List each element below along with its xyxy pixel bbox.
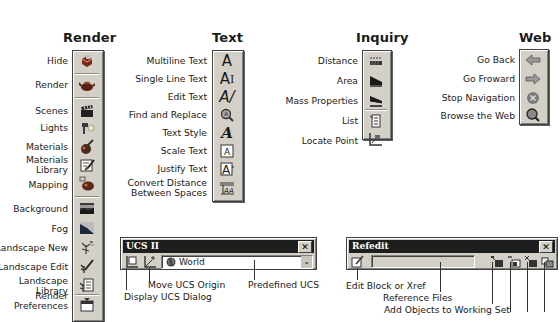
callout-line-save-back-changes xyxy=(544,262,545,312)
render-label-landscape-new: Landscape New xyxy=(0,243,68,253)
svg-text:A: A xyxy=(228,187,234,195)
text-label-edit: Edit Text xyxy=(168,92,207,102)
render-label-background: Background xyxy=(13,204,68,214)
text-label-convert-distance: Convert DistanceBetween Spaces xyxy=(128,178,207,198)
inquiry-separator xyxy=(365,109,387,111)
render-toolbar-title: Render xyxy=(63,30,116,45)
ucs2-title-bar[interactable]: UCS II ✕ xyxy=(123,240,314,253)
callout-line-display-ucs xyxy=(126,268,127,290)
text-label-scale: Scale Text xyxy=(161,146,207,156)
render-label-materials: Materials xyxy=(26,142,68,152)
web-label-stop-navigation: Stop Navigation xyxy=(442,93,515,103)
callout-line-edit-block xyxy=(357,268,358,280)
hide-icon[interactable] xyxy=(78,52,96,70)
landscape-new-icon[interactable] xyxy=(78,238,96,256)
refedit-title: Refedit xyxy=(352,241,389,251)
multiline-text-icon[interactable]: A xyxy=(218,52,236,70)
arrow-right-icon[interactable] xyxy=(524,70,542,88)
web-label-browse-web: Browse the Web xyxy=(441,111,515,121)
scenes-clapboard-icon[interactable] xyxy=(78,102,96,120)
render-label-lights: Lights xyxy=(40,123,68,133)
web-label-go-back: Go Back xyxy=(477,55,515,65)
edit-block-xref-icon[interactable] xyxy=(350,255,365,268)
render-label-fog: Fog xyxy=(52,224,68,234)
callout-line-reference-files xyxy=(440,262,441,292)
text-label-justify: Justify Text xyxy=(158,164,207,174)
edit-text-icon[interactable]: A/ xyxy=(218,88,236,106)
render-label-hide: Hide xyxy=(47,56,68,66)
lights-icon[interactable] xyxy=(78,119,96,137)
display-ucs-dialog-icon[interactable] xyxy=(124,255,139,268)
scale-text-icon[interactable]: A xyxy=(218,142,236,160)
inquiry-label-list: List xyxy=(342,116,358,126)
browse-web-icon[interactable] xyxy=(524,106,542,124)
chevron-down-icon[interactable]: ⌄ xyxy=(301,256,312,268)
render-teapot-icon[interactable] xyxy=(78,76,96,94)
ucs2-title: UCS II xyxy=(126,241,159,251)
list-icon[interactable] xyxy=(367,112,385,130)
materials-icon[interactable] xyxy=(78,138,96,156)
stop-icon[interactable] xyxy=(524,89,542,107)
arrow-left-icon[interactable] xyxy=(524,51,542,69)
text-label-style: Text Style xyxy=(162,128,207,138)
locate-point-icon[interactable] xyxy=(367,130,385,148)
render-label-landscape-edit: Landscape Edit xyxy=(0,262,68,272)
mapping-icon[interactable] xyxy=(78,175,96,193)
materials-library-icon[interactable] xyxy=(78,156,96,174)
inquiry-label-locate-point: Locate Point xyxy=(302,136,358,146)
landscape-edit-icon[interactable] xyxy=(78,257,96,275)
callout-line-remove-objects xyxy=(510,262,511,312)
callout-line-add-objects xyxy=(492,262,493,304)
callout-line-discard-changes xyxy=(527,262,528,312)
reference-files-field[interactable] xyxy=(371,255,475,268)
inquiry-toolbar-title: Inquiry xyxy=(356,30,409,45)
distance-icon[interactable] xyxy=(367,52,385,70)
callout-line-predefined xyxy=(254,260,255,280)
area-icon[interactable] xyxy=(367,72,385,90)
predefined-ucs-value: World xyxy=(179,256,205,268)
reference-files-label: Reference Files xyxy=(383,293,452,303)
move-ucs-origin-icon[interactable] xyxy=(142,255,157,268)
display-ucs-dialog-label: Display UCS Dialog xyxy=(124,292,212,302)
convert-distance-icon[interactable]: AA xyxy=(218,179,236,197)
render-label-materials-library: MaterialsLibrary xyxy=(26,155,68,175)
render-label-render-preferences: RenderPreferences xyxy=(14,291,68,311)
refedit-title-bar[interactable]: Refedit ✕ xyxy=(349,240,555,253)
render-label-scenes: Scenes xyxy=(35,106,68,116)
text-toolbar-title: Text xyxy=(212,30,243,45)
inquiry-label-area: Area xyxy=(337,76,358,86)
save-back-changes-icon[interactable] xyxy=(540,255,554,268)
edit-block-xref-label: Edit Block or Xref xyxy=(346,281,426,291)
find-replace-icon[interactable]: A xyxy=(218,106,236,124)
move-ucs-origin-label: Move UCS Origin xyxy=(148,280,225,290)
inquiry-label-mass-properties: Mass Properties xyxy=(286,96,358,106)
add-objects-working-set-label: Add Objects to Working Set xyxy=(384,305,510,315)
predefined-ucs-label: Predefined UCS xyxy=(248,280,319,290)
world-globe-icon xyxy=(166,257,176,267)
single-line-text-icon[interactable]: AI xyxy=(218,70,236,88)
svg-text:A: A xyxy=(224,147,231,157)
landscape-library-icon[interactable] xyxy=(78,276,96,294)
predefined-ucs-dropdown[interactable]: World ⌄ xyxy=(161,255,313,269)
inquiry-label-distance: Distance xyxy=(318,56,358,66)
mass-properties-icon[interactable] xyxy=(367,92,385,110)
render-separator xyxy=(75,73,99,75)
text-label-find-replace: Find and Replace xyxy=(129,110,207,120)
text-label-single-line: Single Line Text xyxy=(135,74,207,84)
render-label-mapping: Mapping xyxy=(29,180,68,190)
justify-text-icon[interactable]: A xyxy=(218,160,236,178)
render-separator xyxy=(75,196,99,198)
text-style-icon[interactable]: A xyxy=(218,124,236,142)
refedit-close-button[interactable]: ✕ xyxy=(539,241,553,253)
svg-text:A: A xyxy=(222,163,231,177)
text-label-multiline: Multiline Text xyxy=(146,56,207,66)
render-separator xyxy=(75,97,99,99)
background-icon[interactable] xyxy=(78,199,96,217)
web-label-go-forward: Go Froward xyxy=(463,74,515,84)
web-toolbar-title: Web xyxy=(519,30,551,45)
render-label-render: Render xyxy=(35,80,68,90)
fog-icon[interactable] xyxy=(78,219,96,237)
ucs2-close-button[interactable]: ✕ xyxy=(298,241,312,253)
render-preferences-icon[interactable] xyxy=(78,296,96,314)
ucs2-toolbar: UCS II ✕ World ⌄ xyxy=(120,237,317,270)
